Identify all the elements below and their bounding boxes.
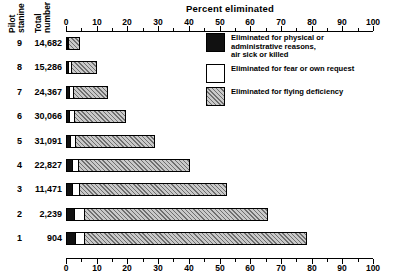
x-tick-label: 60 (237, 17, 263, 27)
legend-item: Eliminated for physical or administrativ… (206, 33, 324, 60)
black-swatch (206, 33, 225, 52)
minor-tick (296, 28, 297, 31)
x-tick-label: 70 (268, 17, 294, 27)
minor-tick (296, 259, 297, 262)
x-tick-label: 60 (237, 263, 263, 273)
minor-tick (173, 259, 174, 262)
row-label-stanine: 3 (4, 184, 22, 194)
x-tick-label: 100 (360, 263, 386, 273)
minor-tick (235, 28, 236, 31)
x-tick-label: 30 (145, 17, 171, 27)
minor-tick (266, 259, 267, 262)
x-tick-label: 80 (299, 263, 325, 273)
bar-segment-flying (71, 61, 97, 74)
bar-row (66, 135, 154, 148)
row-label-total-number: 11,471 (22, 184, 62, 194)
minor-tick (327, 28, 328, 31)
column-header-total-number: Totalnumber (34, 2, 52, 33)
x-tick-label: 20 (114, 263, 140, 273)
minor-tick (112, 28, 113, 31)
row-label-stanine: 5 (4, 136, 22, 146)
row-label-total-number: 904 (22, 233, 62, 243)
minor-tick (143, 259, 144, 262)
bar-row (66, 110, 125, 123)
row-label-total-number: 14,682 (22, 38, 62, 48)
column-header-pilot-stanine: Pilotstanine (8, 3, 26, 33)
minor-tick (173, 28, 174, 31)
bar-row (66, 208, 267, 221)
bar-segment-flying (73, 86, 108, 99)
minor-tick (358, 28, 359, 31)
chart-legend: Eliminated for physical or administrativ… (206, 33, 402, 99)
bar-segment-flying (74, 110, 126, 123)
x-tick-label: 70 (268, 263, 294, 273)
legend-label: Eliminated for flying deficiency (231, 87, 343, 97)
row-label-total-number: 30,066 (22, 111, 62, 121)
row-label-total-number: 24,367 (22, 87, 62, 97)
row-label-stanine: 6 (4, 111, 22, 121)
pilot-stanine-elimination-chart: Percent eliminated Pilotstanine Totalnum… (0, 0, 407, 277)
x-tick-label: 40 (176, 17, 202, 27)
minor-tick (81, 259, 82, 262)
bar-segment-flying (68, 37, 79, 50)
row-label-stanine: 7 (4, 87, 22, 97)
hatched-swatch (206, 87, 225, 106)
minor-tick (143, 28, 144, 31)
bar-row (66, 232, 306, 245)
bar-row (66, 159, 189, 172)
legend-label: Eliminated for fear or own request (231, 64, 354, 74)
row-label-total-number: 15,286 (22, 62, 62, 72)
x-tick-label: 0 (53, 17, 79, 27)
bar-segment-flying (78, 159, 190, 172)
x-tick-label: 40 (176, 263, 202, 273)
row-label-stanine: 1 (4, 233, 22, 243)
x-tick-label: 10 (84, 263, 110, 273)
x-tick-label: 100 (360, 17, 386, 27)
row-label-stanine: 8 (4, 62, 22, 72)
legend-item: Eliminated for flying deficiency (206, 87, 343, 106)
legend-item: Eliminated for fear or own request (206, 64, 354, 83)
row-label-total-number: 31,091 (22, 136, 62, 146)
minor-tick (266, 28, 267, 31)
minor-tick (235, 259, 236, 262)
x-tick-label: 90 (329, 263, 355, 273)
chart-title: Percent eliminated (186, 3, 274, 14)
top-axis-line (66, 31, 373, 32)
bar-row (66, 61, 96, 74)
minor-tick (112, 259, 113, 262)
bar-segment-flying (79, 183, 226, 196)
minor-tick (358, 259, 359, 262)
minor-tick (327, 259, 328, 262)
bar-row (66, 86, 107, 99)
bar-segment-flying (75, 135, 155, 148)
x-tick-label: 50 (207, 263, 233, 273)
x-tick-label: 0 (53, 263, 79, 273)
legend-label: Eliminated for physical or administrativ… (231, 33, 324, 60)
minor-tick (81, 28, 82, 31)
minor-tick (204, 259, 205, 262)
x-tick-label: 10 (84, 17, 110, 27)
bar-row (66, 183, 226, 196)
x-tick-label: 50 (207, 17, 233, 27)
row-label-stanine: 2 (4, 209, 22, 219)
row-label-total-number: 22,827 (22, 160, 62, 170)
x-tick-label: 20 (114, 17, 140, 27)
minor-tick (204, 28, 205, 31)
row-label-stanine: 4 (4, 160, 22, 170)
x-tick-label: 30 (145, 263, 171, 273)
bar-segment-flying (84, 208, 268, 221)
x-tick-label: 80 (299, 17, 325, 27)
x-tick-label: 90 (329, 17, 355, 27)
row-label-stanine: 9 (4, 38, 22, 48)
row-label-total-number: 2,239 (22, 209, 62, 219)
bar-segment-flying (84, 232, 306, 245)
white-swatch (206, 64, 225, 83)
bar-row (66, 37, 79, 50)
